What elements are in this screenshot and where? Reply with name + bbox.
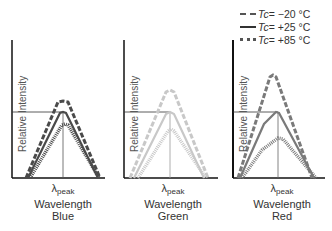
y-axis-label-blue: Relative Intensity: [17, 76, 28, 152]
legend-item-plus85: Tc= +85 °C: [240, 33, 310, 46]
curve-plus25: [240, 112, 314, 178]
curve-minus20: [238, 75, 312, 178]
dashed-line-icon: [240, 13, 256, 15]
legend-item-minus20: Tc= −20 °C: [240, 7, 310, 20]
x-label-green: λpeak Wavelength Green: [123, 182, 223, 222]
solid-line-icon: [240, 26, 256, 28]
legend: Tc= −20 °C Tc= +25 °C Tc= +85 °C: [240, 7, 310, 46]
x-label-blue: λpeak Wavelength Blue: [13, 182, 113, 222]
x-label-red: λpeak Wavelength Red: [232, 182, 332, 222]
legend-item-plus25: Tc= +25 °C: [240, 20, 310, 33]
y-axis-label-green: Relative Intensity: [129, 76, 140, 152]
dotted-line-icon: [240, 38, 256, 41]
y-axis-label-red: Relative Intensity: [238, 76, 249, 152]
